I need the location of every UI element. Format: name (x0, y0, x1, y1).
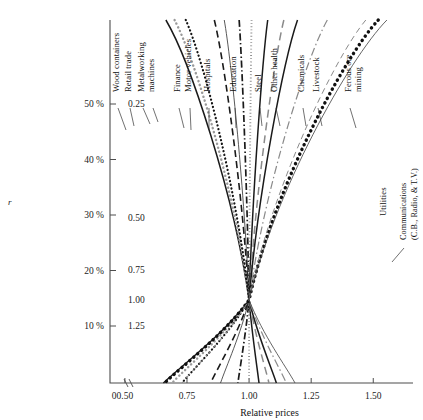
curve-label-communications-line1: Communications (400, 183, 409, 240)
curve-label-steel: Steel (254, 74, 263, 92)
y-left-tick-label-2: 30 % (84, 210, 104, 220)
curve-label-utilities: Utilities (379, 187, 388, 216)
y-right-tick-label-0: 0.25 (128, 99, 145, 109)
curve-label-hospitals: Hospitals (203, 59, 212, 92)
y-right-tick-label-3: 1.00 (128, 295, 145, 305)
curve-label-retail-trade: Retail trade (124, 51, 133, 92)
x-tick-label-2: 0.75 (179, 391, 196, 401)
x-tick-label-4: 1.25 (303, 391, 320, 401)
label-leader-1 (130, 108, 134, 126)
curve-label-education: Education (229, 56, 238, 92)
label-leader-2 (143, 108, 150, 124)
y-axis-title: r (8, 197, 12, 207)
y-left-tick-label-0: 50 % (84, 99, 104, 109)
curve-label-ferous-ore-mining-line2: mining (354, 67, 363, 92)
x-tick-label-1: 0.50 (117, 391, 134, 401)
y-left-tick-label-3: 20 % (84, 266, 104, 276)
y-right-tick-label-2: 0.75 (128, 265, 145, 275)
y-right-tick-label-4: 1.25 (128, 321, 145, 331)
label-leader-10 (303, 108, 306, 126)
curve-label-other-health: Other health (270, 48, 279, 92)
curve-label-wood-containers: Wood containers (112, 33, 121, 92)
x-axis-title: Relative prices (240, 407, 299, 418)
x-tick-label-3: 1.00 (241, 391, 258, 401)
curve-label-metalworking-machines-line1: Metalworking (137, 42, 146, 92)
y-left-tick-label-1: 40 % (84, 155, 104, 165)
label-leader-8 (260, 108, 262, 126)
curve-label-communications-line2: (C.B., Radio, & T.V.) (411, 168, 420, 240)
curve-label-livestock: Livestock (312, 57, 321, 92)
label-leader-3 (153, 108, 158, 122)
label-leader-4 (179, 108, 184, 128)
series-curve-education (249, 20, 251, 383)
curve-label-metalworking-machines-line2: machines (147, 59, 156, 92)
curve-label-chemicals: Chemicals (297, 55, 306, 92)
chart-figure: 00.500.751.001.251.50Relative prices50 %… (0, 0, 423, 420)
label-leader-12 (350, 108, 356, 128)
x-tick-label-5: 1.50 (365, 391, 382, 401)
label-leader-13 (392, 248, 404, 262)
label-leader-5 (190, 108, 191, 130)
y-right-tick-label-1: 0.50 (128, 213, 145, 223)
curve-label-ferous-ore-mining-line1: Ferous ore (344, 54, 353, 92)
label-leader-0 (118, 108, 126, 130)
label-leader-7 (235, 108, 236, 128)
y-left-tick-label-4: 10 % (84, 321, 104, 331)
label-leader-9 (276, 108, 280, 126)
curve-label-finance: Finance (173, 64, 182, 92)
curve-label-motor-vehicles: Motor vehicles (184, 39, 193, 92)
